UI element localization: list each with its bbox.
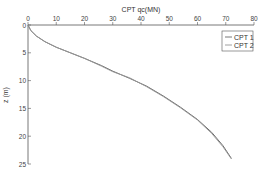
y-axis-label: z (m)	[2, 87, 10, 103]
y-tick-label: 10	[19, 77, 27, 84]
legend: CPT 1 CPT 2	[222, 31, 254, 51]
x-tick-label: 20	[81, 15, 89, 22]
y-tick-label: 20	[19, 133, 27, 140]
y-tick-label: 5	[22, 49, 26, 56]
x-tick-label: 0	[26, 15, 30, 22]
series-lines	[28, 25, 231, 159]
x-tick-label: 30	[109, 15, 117, 22]
series-line-cpt2	[28, 25, 231, 159]
x-tick-label: 50	[166, 15, 174, 22]
y-tick-label: 25	[19, 161, 27, 168]
x-tick-label: 70	[222, 15, 230, 22]
chart: 01020304050607080 0510152025 CPT qc(MN) …	[0, 0, 269, 173]
x-ticks: 01020304050607080	[26, 15, 258, 25]
y-tick-label: 0	[22, 22, 26, 29]
chart-title: CPT qc(MN)	[122, 6, 161, 14]
y-ticks: 0510152025	[19, 22, 31, 168]
y-tick-label: 15	[19, 105, 27, 112]
legend-label-cpt2: CPT 2	[234, 42, 254, 49]
series-line-cpt1	[28, 25, 231, 158]
x-tick-label: 80	[250, 15, 258, 22]
x-tick-label: 60	[194, 15, 202, 22]
legend-label-cpt1: CPT 1	[234, 34, 254, 41]
x-tick-label: 10	[53, 15, 61, 22]
x-tick-label: 40	[137, 15, 145, 22]
